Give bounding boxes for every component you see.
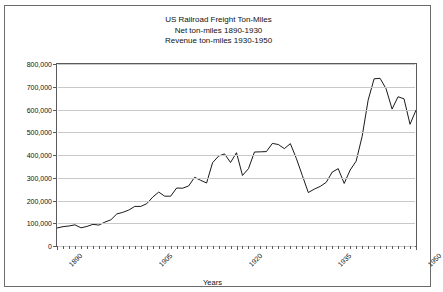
gridline-horizontal (58, 223, 415, 224)
x-tick-mark-minor (195, 246, 196, 249)
x-tick-mark-minor (356, 246, 357, 249)
gridline-horizontal (58, 64, 415, 65)
x-tick-mark-minor (398, 246, 399, 249)
x-tick-mark-major (147, 246, 148, 250)
x-tick-label: 1905 (157, 252, 173, 268)
x-tick-mark-minor (87, 246, 88, 249)
x-tick-mark-minor (129, 246, 130, 249)
x-tick-label: 1890 (68, 252, 84, 268)
x-tick-mark-minor (141, 246, 142, 249)
x-tick-mark-minor (308, 246, 309, 249)
x-tick-mark-minor (189, 246, 190, 249)
gridline-horizontal (58, 155, 415, 156)
gridline-horizontal (58, 87, 415, 88)
x-tick-mark-minor (296, 246, 297, 249)
chart-subtitle-2: Revenue ton-miles 1930-1950 (5, 36, 432, 47)
x-tick-mark-minor (219, 246, 220, 249)
x-tick-mark-minor (207, 246, 208, 249)
x-tick-mark-minor (278, 246, 279, 249)
x-tick-mark-minor (332, 246, 333, 249)
chart-subtitle-1: Net ton-miles 1890-1930 (5, 26, 432, 37)
x-tick-mark-minor (362, 246, 363, 249)
x-tick-mark-minor (392, 246, 393, 249)
chart-title-block: US Railroad Freight Ton-Miles Net ton-mi… (5, 15, 432, 47)
x-tick-mark-minor (290, 246, 291, 249)
x-tick-label: 1920 (247, 252, 263, 268)
x-tick-mark-minor (63, 246, 64, 249)
x-tick-label: 1935 (337, 252, 353, 268)
y-tick-mark (53, 132, 57, 133)
x-tick-mark-minor (153, 246, 154, 249)
y-tick-mark (53, 178, 57, 179)
x-tick-mark-major (237, 246, 238, 250)
x-tick-mark-minor (105, 246, 106, 249)
y-tick-label: 700,000 (27, 83, 52, 90)
gridline-horizontal (58, 178, 415, 179)
y-tick-label: 0 (48, 243, 52, 250)
x-tick-mark-minor (231, 246, 232, 249)
x-tick-label: 1950 (427, 252, 443, 268)
x-tick-mark-minor (386, 246, 387, 249)
x-tick-mark-minor (404, 246, 405, 249)
x-tick-mark-minor (302, 246, 303, 249)
x-tick-mark-minor (380, 246, 381, 249)
x-tick-mark-minor (254, 246, 255, 249)
y-tick-label: 100,000 (27, 220, 52, 227)
x-tick-mark-minor (248, 246, 249, 249)
x-tick-mark-minor (225, 246, 226, 249)
x-tick-mark-minor (117, 246, 118, 249)
x-tick-mark-minor (260, 246, 261, 249)
x-tick-mark-major (57, 246, 58, 250)
x-tick-mark-minor (93, 246, 94, 249)
x-tick-mark-minor (165, 246, 166, 249)
x-tick-mark-minor (272, 246, 273, 249)
y-tick-mark (53, 201, 57, 202)
x-tick-mark-minor (320, 246, 321, 249)
y-tick-mark (53, 223, 57, 224)
x-tick-mark-minor (159, 246, 160, 249)
chart-frame: US Railroad Freight Ton-Miles Net ton-mi… (4, 5, 431, 287)
x-tick-mark-minor (99, 246, 100, 249)
x-tick-mark-minor (344, 246, 345, 249)
x-tick-mark-minor (213, 246, 214, 249)
x-tick-mark-minor (242, 246, 243, 249)
x-tick-mark-major (326, 246, 327, 250)
x-tick-mark-minor (177, 246, 178, 249)
x-tick-mark-minor (314, 246, 315, 249)
x-tick-mark-minor (111, 246, 112, 249)
y-tick-label: 200,000 (27, 197, 52, 204)
gridline-horizontal (58, 110, 415, 111)
plot-wrapper: Ton-Miles (Millions) 0100,000200,000300,… (56, 63, 417, 247)
y-tick-label: 400,000 (27, 152, 52, 159)
y-tick-label: 300,000 (27, 174, 52, 181)
x-tick-mark-minor (266, 246, 267, 249)
x-tick-mark-minor (171, 246, 172, 249)
x-tick-mark-minor (284, 246, 285, 249)
y-tick-mark (53, 110, 57, 111)
y-tick-mark (53, 64, 57, 65)
chart-title: US Railroad Freight Ton-Miles (5, 15, 432, 26)
x-tick-mark-minor (338, 246, 339, 249)
x-tick-mark-minor (123, 246, 124, 249)
x-tick-mark-minor (350, 246, 351, 249)
gridline-horizontal (58, 201, 415, 202)
x-tick-mark-minor (75, 246, 76, 249)
x-tick-mark-minor (201, 246, 202, 249)
x-tick-mark-minor (374, 246, 375, 249)
x-tick-mark-minor (183, 246, 184, 249)
y-tick-mark (53, 87, 57, 88)
x-tick-mark-minor (410, 246, 411, 249)
x-tick-mark-minor (81, 246, 82, 249)
y-tick-label: 600,000 (27, 106, 52, 113)
x-tick-mark-major (416, 246, 417, 250)
y-tick-mark (53, 155, 57, 156)
y-tick-label: 500,000 (27, 129, 52, 136)
gridline-horizontal (58, 132, 415, 133)
x-tick-mark-minor (135, 246, 136, 249)
plot-area: 0100,000200,000300,000400,000500,000600,… (56, 63, 417, 247)
x-tick-mark-minor (69, 246, 70, 249)
x-axis-label: Years (5, 278, 420, 287)
x-tick-mark-minor (368, 246, 369, 249)
y-tick-label: 800,000 (27, 61, 52, 68)
